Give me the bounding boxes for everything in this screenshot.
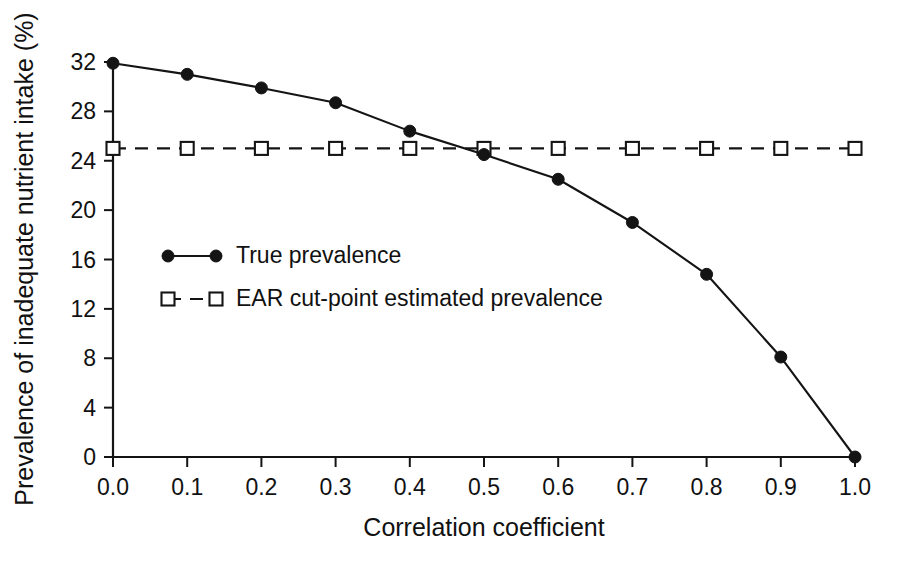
x-tick-label: 1.0 — [839, 474, 871, 500]
y-tick-label: 0 — [83, 444, 96, 470]
x-tick-label: 0.7 — [616, 474, 648, 500]
x-tick-label: 0.4 — [394, 474, 426, 500]
chart-figure: 048121620242832 0.00.10.20.30.40.50.60.7… — [0, 0, 904, 561]
data-point — [330, 97, 342, 109]
y-axis-title: Prevalence of inadequate nutrient intake… — [10, 12, 38, 505]
axes — [113, 62, 855, 457]
data-point — [403, 142, 416, 155]
data-point — [107, 142, 120, 155]
y-tick-label: 28 — [70, 98, 96, 124]
legend-marker — [162, 250, 174, 262]
x-tick-label: 0.8 — [691, 474, 723, 500]
y-tick-label: 24 — [70, 148, 96, 174]
legend-marker — [210, 250, 222, 262]
legend-entry: True prevalence — [162, 242, 401, 268]
data-point — [774, 142, 787, 155]
data-point — [552, 142, 565, 155]
data-point — [107, 57, 119, 69]
data-point — [478, 149, 490, 161]
data-point — [849, 451, 861, 463]
data-point — [329, 142, 342, 155]
y-tick-label: 16 — [70, 247, 96, 273]
x-tick-label: 0.5 — [468, 474, 500, 500]
y-tick-label: 20 — [70, 197, 96, 223]
x-tick-label: 0.9 — [765, 474, 797, 500]
legend-label: True prevalence — [236, 242, 401, 268]
legend-marker — [162, 293, 175, 306]
y-axis-ticks: 048121620242832 — [70, 49, 113, 470]
chart-legend: True prevalenceEAR cut-point estimated p… — [162, 242, 603, 311]
data-point — [404, 125, 416, 137]
data-point — [181, 68, 193, 80]
x-axis-title: Correlation coefficient — [363, 513, 604, 541]
line-chart: 048121620242832 0.00.10.20.30.40.50.60.7… — [0, 0, 904, 561]
x-tick-label: 0.6 — [542, 474, 574, 500]
data-point — [701, 268, 713, 280]
x-tick-label: 0.1 — [171, 474, 203, 500]
x-tick-label: 0.0 — [97, 474, 129, 500]
x-tick-label: 0.3 — [320, 474, 352, 500]
data-point — [255, 82, 267, 94]
x-tick-label: 0.2 — [245, 474, 277, 500]
legend-entry: EAR cut-point estimated prevalence — [162, 285, 603, 311]
y-tick-label: 4 — [83, 395, 96, 421]
data-point — [255, 142, 268, 155]
data-point — [626, 216, 638, 228]
data-point — [700, 142, 713, 155]
y-tick-label: 32 — [70, 49, 96, 75]
x-axis-ticks: 0.00.10.20.30.40.50.60.70.80.91.0 — [97, 457, 871, 500]
data-point — [552, 173, 564, 185]
legend-marker — [210, 293, 223, 306]
data-point — [849, 142, 862, 155]
data-point — [626, 142, 639, 155]
data-point — [775, 351, 787, 363]
y-tick-label: 8 — [83, 345, 96, 371]
data-point — [181, 142, 194, 155]
series-line — [113, 63, 855, 457]
legend-label: EAR cut-point estimated prevalence — [236, 285, 603, 311]
y-tick-label: 12 — [70, 296, 96, 322]
